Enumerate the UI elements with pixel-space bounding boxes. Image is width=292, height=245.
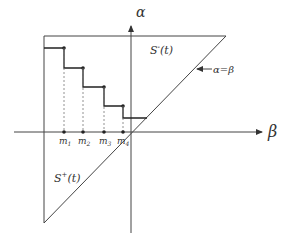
tick-label-m2: m2 bbox=[78, 136, 91, 147]
s-plus-label: S+(t) bbox=[54, 171, 80, 185]
tick-dot bbox=[102, 130, 106, 134]
tick-dot bbox=[81, 130, 85, 134]
diagonal-line bbox=[44, 36, 226, 223]
tick-label-m1: m1 bbox=[59, 136, 71, 147]
preisach-diagram: m1 m2 m3 m4 α β S-(t) S+(t) α=β bbox=[0, 0, 292, 245]
s-minus-label: S-(t) bbox=[150, 43, 173, 57]
beta-axis-label: β bbox=[267, 122, 277, 141]
tick-dot bbox=[62, 130, 66, 134]
alpha-equals-beta-label: α=β bbox=[213, 64, 234, 75]
alpha-axis-label: α bbox=[136, 4, 146, 20]
tick-dot bbox=[121, 130, 125, 134]
tick-label-m3: m3 bbox=[99, 136, 112, 147]
staircase-boundary bbox=[44, 48, 147, 118]
